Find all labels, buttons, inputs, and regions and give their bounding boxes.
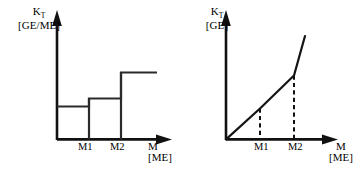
right-y-axis-label: KT [GE] — [194, 6, 240, 31]
right-tick-label-m2: M2 — [288, 141, 303, 152]
left-y-axis-unit: [GE/ME] — [16, 20, 62, 31]
right-x-axis-label: M [ME] — [324, 141, 356, 164]
right-tick-label-m1: M1 — [254, 141, 269, 152]
left-tick-label-m1: M1 — [78, 141, 93, 152]
left-tick-label-m2: M2 — [110, 141, 125, 152]
right-y-axis-unit: [GE] — [194, 20, 240, 31]
right-y-axis-symbol: KT — [194, 6, 240, 20]
left-y-axis-symbol: KT — [16, 6, 62, 20]
figure-two-panel-cost-charts: KT [GE/ME] M1 M2 M [ME] KT — [0, 0, 356, 177]
chart-panel-total-cost: KT [GE] M1 M2 M [ME] — [178, 0, 356, 177]
right-x-axis-unit: [ME] — [324, 152, 356, 163]
left-y-axis-label: KT [GE/ME] — [16, 6, 62, 31]
chart-panel-marginal-cost: KT [GE/ME] M1 M2 M [ME] — [0, 0, 178, 177]
left-x-axis-label: M [ME] — [148, 141, 178, 164]
left-step-function-path — [57, 73, 157, 107]
left-x-axis-unit: [ME] — [148, 152, 178, 163]
